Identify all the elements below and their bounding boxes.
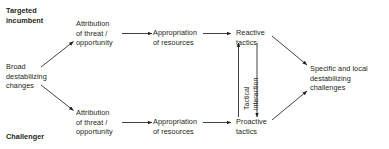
label-tactical-interaction: Tactical interaction [242,52,260,110]
node-proactive-tactics: Proactive tactics [236,117,276,136]
node-top-attribution: Attribution of threat / opportunity [76,19,124,48]
node-specific-local-challenges: Specific and local destabilizing challen… [310,64,382,93]
flow-diagram: Targeted incumbent Challenger Broad dest… [0,0,389,149]
node-bottom-attribution: Attribution of threat / opportunity [76,108,124,137]
node-bottom-appropriation: Appropriation of resources [153,117,205,136]
node-broad-destabilizing-changes: Broad destabilizing changes [6,62,60,91]
node-reactive-tactics: Reactive tactics [236,28,276,47]
arrow-reactive-tactics-to-outcome [272,36,307,65]
label-targeted-incumbent: Targeted incumbent [6,6,66,25]
node-top-appropriation: Appropriation of resources [153,28,205,47]
label-challenger: Challenger [6,132,66,142]
arrow-proactive-tactics-to-outcome [272,91,307,120]
